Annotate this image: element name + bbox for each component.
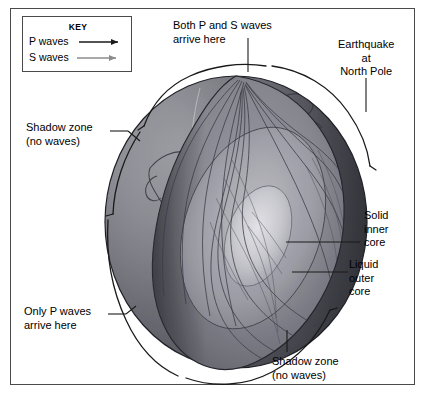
p-wave-arrow-icon	[79, 39, 118, 45]
label-solid-inner-core: Solid inner core	[364, 209, 388, 250]
label-shadow-zone-lower: Shadow zone (no waves)	[272, 355, 339, 382]
label-liquid-outer-core: Liquid outer core	[349, 258, 378, 299]
label-shadow-zone-upper: Shadow zone (no waves)	[26, 121, 93, 148]
label-only-p-waves: Only P waves arrive here	[24, 305, 91, 332]
key-entry-p-waves: P waves	[29, 35, 69, 47]
key-entry-s-waves: S waves	[29, 51, 69, 63]
key-box: KEY P waves S waves	[22, 16, 132, 72]
label-earthquake-north-pole: Earthquake at North Pole	[338, 38, 394, 79]
figure-root: KEY P waves S waves Both P and S waves a…	[0, 0, 431, 412]
key-title: KEY	[23, 22, 133, 32]
label-both-p-and-s: Both P and S waves arrive here	[173, 19, 272, 46]
s-wave-arrow-icon	[77, 55, 116, 61]
